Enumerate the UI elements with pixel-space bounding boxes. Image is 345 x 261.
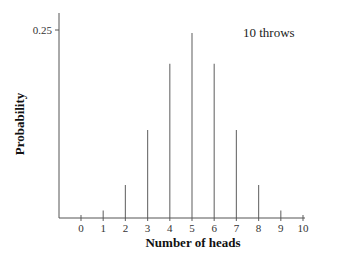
x-tick-label: 10 <box>298 222 310 234</box>
y-tick-label: 0.25 <box>33 24 53 36</box>
x-tick-label: 2 <box>123 222 129 234</box>
x-tick-label: 0 <box>78 222 84 234</box>
annotation-10-throws: 10 throws <box>243 25 295 40</box>
x-axis-title: Number of heads <box>145 235 240 250</box>
x-tick-label: 3 <box>145 222 151 234</box>
x-ticks: 012345678910 <box>78 222 309 234</box>
x-tick-label: 9 <box>278 222 284 234</box>
x-tick-label: 1 <box>100 222 106 234</box>
bars <box>81 33 303 221</box>
x-tick-label: 6 <box>211 222 217 234</box>
y-axis-title: Probability <box>12 92 27 155</box>
x-tick-label: 8 <box>256 222 262 234</box>
x-tick-label: 5 <box>189 222 195 234</box>
probability-chart: 0.25 012345678910 Number of heads Probab… <box>0 0 345 261</box>
x-tick-label: 4 <box>167 222 173 234</box>
x-tick-label: 7 <box>234 222 240 234</box>
